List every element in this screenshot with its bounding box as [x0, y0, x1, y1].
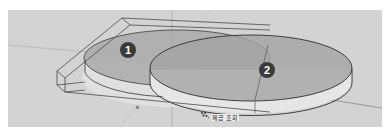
object-badge-1: 1: [120, 42, 136, 58]
snap-cursor-icon: [201, 112, 209, 118]
3d-viewport[interactable]: 1 2 제곱 조회: [8, 10, 382, 127]
cursor-tooltip: 제곱 조회: [211, 114, 239, 121]
object-badge-2: 2: [259, 62, 275, 78]
scene-canvas[interactable]: [8, 10, 382, 127]
control-point[interactable]: [136, 106, 139, 109]
disk-2-top[interactable]: [150, 35, 352, 101]
